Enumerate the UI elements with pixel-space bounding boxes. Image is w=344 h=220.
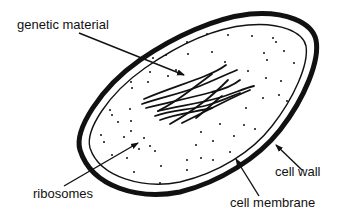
label-ribosomes: ribosomes bbox=[33, 186, 93, 201]
cell-membrane-outline bbox=[89, 24, 306, 184]
label-genetic-material: genetic material bbox=[17, 17, 109, 32]
genetic-material-strands bbox=[142, 65, 254, 124]
cell-membrane-pointer bbox=[236, 159, 259, 196]
label-cell-membrane: cell membrane bbox=[230, 195, 315, 210]
label-cell-wall: cell wall bbox=[275, 164, 321, 179]
bacterial-cell-diagram: genetic material ribosomes cell wall cel… bbox=[0, 0, 344, 220]
ribosome-dots bbox=[100, 33, 295, 184]
